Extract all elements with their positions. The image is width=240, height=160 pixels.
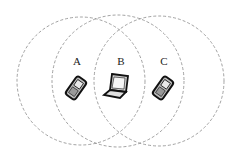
mobile-phone-icon [65, 76, 87, 101]
node-label-a: A [73, 55, 81, 67]
node-label-c: C [160, 55, 167, 67]
node-label-b: B [117, 55, 124, 67]
range-diagram [0, 0, 240, 160]
laptop-icon [104, 74, 128, 98]
mobile-phone-icon [152, 76, 174, 101]
